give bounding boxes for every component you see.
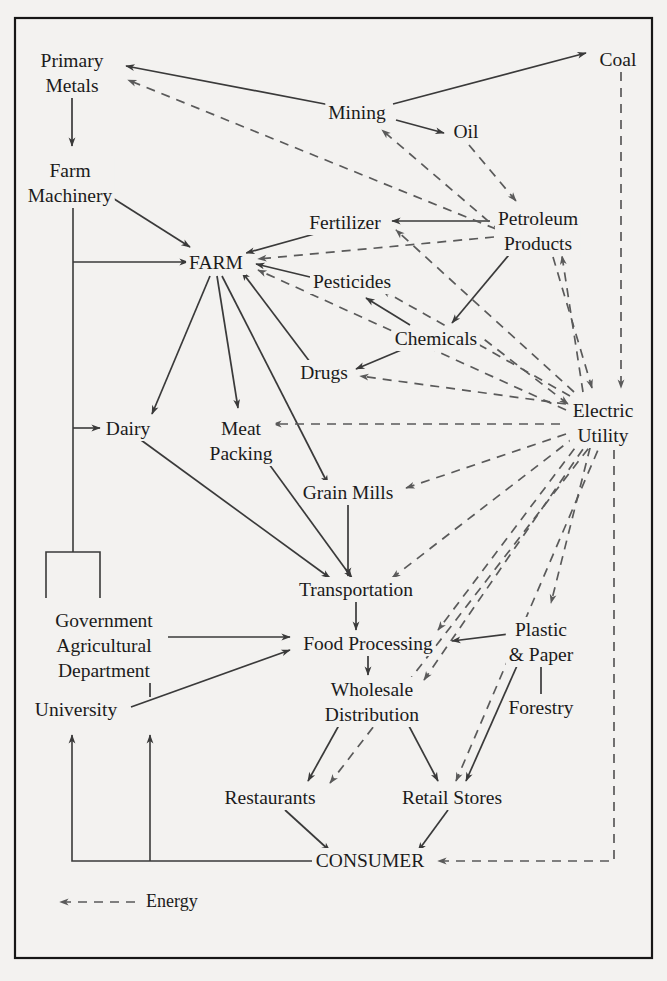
energy-electric-retail-stores [456,436,604,781]
energy-electric-food-processing [438,436,584,630]
node-label-line: Retail Stores [402,785,502,810]
node-label-line: Fertilizer [309,210,380,235]
edge-farm-meat-packing [217,276,238,408]
node-label-line: Products [498,231,578,256]
edge-restaurants-consumer [285,810,330,851]
edge-fertilizer-farm [246,233,318,253]
node-meat_packing: MeatPacking [207,416,276,466]
node-label-line: Machinery [28,183,112,208]
node-primary_metals: PrimaryMetals [38,48,107,98]
energy-oil-petroleum [469,145,516,201]
node-label-line: & Paper [509,642,573,667]
node-wholesale_distribution: WholesaleDistribution [322,677,422,727]
node-label-line: Wholesale [325,677,419,702]
node-oil: Oil [451,119,482,144]
node-label-line: FARM [189,250,243,275]
energy-electric-plastic-paper [551,432,594,603]
node-label-line: Agricultural [55,633,152,658]
node-label-line: Utility [573,423,634,448]
node-plastic_paper: Plastic& Paper [506,617,576,667]
node-coal: Coal [597,47,640,72]
energy-flow-layer [128,72,621,861]
node-label-line: Drugs [300,360,348,385]
node-university: University [32,697,120,722]
node-label-line: Grain Mills [303,480,393,505]
node-fertilizer: Fertilizer [306,210,383,235]
node-label-line: Transportation [299,577,413,602]
edge-mining-oil [396,120,444,133]
node-farm_machinery: FarmMachinery [25,158,115,208]
node-label-line: Primary [41,48,104,73]
node-label-line: Electric [573,398,634,423]
node-chemicals: Chemicals [392,326,480,351]
edge-mining-primary-metals [126,66,330,105]
material-flow-layer [46,53,586,861]
node-pesticides: Pesticides [310,269,394,294]
edge-retail-stores-consumer [418,810,448,851]
node-dairy: Dairy [103,416,153,441]
edge-chemicals-drugs [356,348,406,369]
node-label-line: Mining [328,100,385,125]
energy-petroleum-mining [382,130,501,232]
edge-mining-coal [393,53,586,104]
node-label-line: CONSUMER [316,848,424,873]
node-consumer: CONSUMER [313,848,427,873]
node-label-line: Pesticides [313,269,391,294]
node-label-line: Food Processing [303,631,432,656]
node-label-line: Chemicals [395,326,477,351]
node-food_processing: Food Processing [300,631,435,656]
node-label-line: Dairy [106,416,150,441]
node-label-line: Metals [41,73,104,98]
edge-pesticides-farm [256,264,310,277]
energy-electric-petroleum [562,256,583,392]
edge-drugs-farm [242,272,310,362]
node-label-line: Government [55,608,152,633]
node-retail_stores: Retail Stores [399,785,505,810]
node-restaurants: Restaurants [222,785,319,810]
edge-farm-dairy [152,276,210,414]
node-label-line: Packing [210,441,273,466]
node-drugs: Drugs [297,360,351,385]
left-bracket [46,552,100,598]
node-label-line: Oil [454,119,479,144]
energy-electric-transportation [392,436,576,578]
node-label-line: Meat [210,416,273,441]
node-transportation: Transportation [296,577,416,602]
node-mining: Mining [325,100,388,125]
node-label-line: University [35,697,117,722]
node-label-line: Coal [600,47,637,72]
energy-electric-drugs [360,376,566,404]
diagram-canvas: PrimaryMetalsCoalMiningOilFarmMachineryF… [0,0,667,981]
node-label-line: Forestry [509,695,574,720]
energy-electric-grain-mills [406,434,566,488]
edge-petroleum-chemicals [452,250,513,323]
node-label-line: Farm [28,158,112,183]
legend-label: Energy [146,891,198,912]
node-label-line: Restaurants [225,785,316,810]
node-forestry: Forestry [506,695,577,720]
node-government_ag_dept: GovernmentAgriculturalDepartment [52,608,155,683]
node-label-line: Department [55,658,152,683]
node-electric_utility: ElectricUtility [570,398,637,448]
node-label-line: Plastic [509,617,573,642]
edge-chemicals-pesticides [366,298,410,325]
node-grain_mills: Grain Mills [300,480,396,505]
node-farm: FARM [186,250,246,275]
node-petroleum_products: PetroleumProducts [495,206,581,256]
node-label-line: Petroleum [498,206,578,231]
node-label-line: Distribution [325,702,419,727]
